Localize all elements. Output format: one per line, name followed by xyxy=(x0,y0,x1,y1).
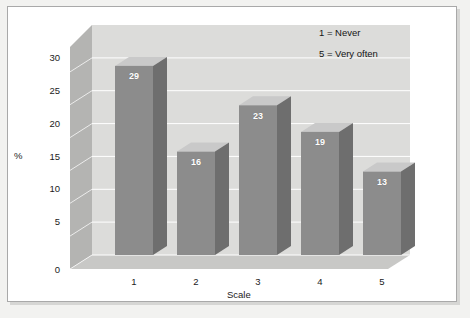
chart-canvas: 30 25 20 15 10 5 0 % 1 2 3 4 5 Scale 29 … xyxy=(8,7,456,301)
y-axis-tick-10: 10 xyxy=(34,184,60,194)
legend-annotation: 1 = Never 5 = Very often xyxy=(319,28,378,47)
bar-1-side xyxy=(153,57,167,255)
y-axis-tick-30: 30 xyxy=(34,53,60,63)
bar-2-face xyxy=(177,152,215,255)
chart-frame: 30 25 20 15 10 5 0 % 1 2 3 4 5 Scale 29 … xyxy=(7,6,457,302)
bar-4-face xyxy=(301,132,339,255)
figure-root: 30 25 20 15 10 5 0 % 1 2 3 4 5 Scale 29 … xyxy=(0,0,470,318)
y-axis-tick-20: 20 xyxy=(34,119,60,129)
x-axis-tick-2: 2 xyxy=(181,277,211,287)
bar-value-label-3: 23 xyxy=(241,111,275,121)
y-axis-tick-0: 0 xyxy=(34,265,60,275)
y-axis-tick-15: 15 xyxy=(34,152,60,162)
x-axis-tick-5: 5 xyxy=(367,277,397,287)
y-axis-title: % xyxy=(14,151,22,161)
x-axis-tick-3: 3 xyxy=(243,277,273,287)
bar-3-side xyxy=(277,96,291,255)
chart-left-wall xyxy=(70,25,92,269)
y-axis-tick-25: 25 xyxy=(34,86,60,96)
bar-column-1[interactable] xyxy=(115,57,167,255)
bar-2-side xyxy=(215,143,229,255)
bar-chart-3d xyxy=(8,7,456,301)
legend-line-very-often: 5 = Very often xyxy=(319,49,378,59)
bar-3-face xyxy=(239,105,277,255)
x-axis-tick-1: 1 xyxy=(119,277,149,287)
bar-4-side xyxy=(339,123,353,255)
x-axis-title: Scale xyxy=(227,290,251,300)
bar-5-side xyxy=(401,163,415,255)
bar-value-label-2: 16 xyxy=(179,157,213,167)
bar-value-label-1: 29 xyxy=(117,71,151,81)
y-axis-tick-5: 5 xyxy=(34,217,60,227)
bar-value-label-4: 19 xyxy=(303,137,337,147)
chart-floor xyxy=(70,255,410,269)
legend-line-never: 1 = Never xyxy=(319,28,378,38)
bar-1-face xyxy=(115,66,153,255)
x-axis-tick-4: 4 xyxy=(305,277,335,287)
bar-value-label-5: 13 xyxy=(365,177,399,187)
